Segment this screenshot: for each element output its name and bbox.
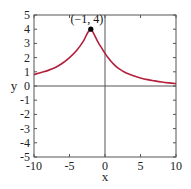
x-tick-label: -5 xyxy=(65,159,75,173)
chart: -10-50510-5-4-3-2-1012345 (−1, 4) x y xyxy=(0,0,191,189)
peak-point-marker xyxy=(88,27,93,32)
x-tick-label: 5 xyxy=(138,159,144,173)
y-axis-label: y xyxy=(11,78,18,93)
y-tick-label: 5 xyxy=(24,8,30,22)
annotations: (−1, 4) xyxy=(70,12,103,32)
y-tick-label: 1 xyxy=(24,65,30,79)
y-tick-label: 2 xyxy=(24,51,30,65)
y-tick-label: -1 xyxy=(20,93,30,107)
x-axis-label: x xyxy=(102,169,109,184)
y-tick-label: 0 xyxy=(24,79,30,93)
tick-labels: -10-50510-5-4-3-2-1012345 xyxy=(20,8,182,173)
y-tick-label: 3 xyxy=(24,36,30,50)
y-tick-label: -5 xyxy=(20,150,30,164)
peak-point-label: (−1, 4) xyxy=(70,12,103,26)
x-tick-label: 10 xyxy=(170,159,182,173)
axes xyxy=(34,15,176,157)
y-tick-label: -3 xyxy=(20,122,30,136)
y-tick-label: -4 xyxy=(20,136,30,150)
y-tick-label: -2 xyxy=(20,107,30,121)
y-tick-label: 4 xyxy=(24,22,30,36)
